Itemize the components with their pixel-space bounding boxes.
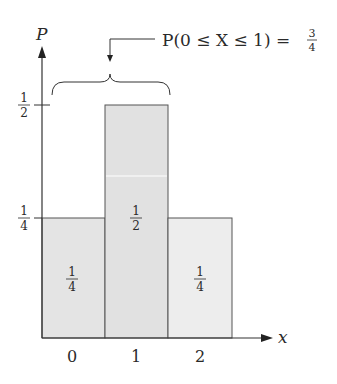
- svg-text:2: 2: [132, 219, 140, 233]
- x-tick-label-0: 0: [67, 347, 77, 366]
- y-tick-label-half: 1 2: [18, 91, 30, 120]
- x-tick-label-2: 2: [195, 347, 205, 366]
- svg-text:1: 1: [20, 204, 28, 218]
- svg-text:3: 3: [309, 27, 316, 40]
- svg-text:4: 4: [68, 280, 76, 294]
- svg-text:4: 4: [309, 41, 316, 54]
- x-tick-label-1: 1: [131, 347, 141, 366]
- svg-text:1: 1: [68, 265, 76, 279]
- svg-text:4: 4: [196, 280, 204, 294]
- annotation-text: P(0 ≤ X ≤ 1) =: [162, 30, 290, 50]
- svg-text:1: 1: [132, 204, 140, 218]
- x-axis-label: x: [278, 327, 288, 347]
- brace: [52, 74, 170, 95]
- svg-text:4: 4: [20, 219, 28, 233]
- annotation-arrow: [107, 39, 155, 62]
- bar-chart: P x 1 2 1 4 0 1 2 1 4 1 2 1 4: [0, 0, 337, 384]
- y-tick-label-quarter: 1 4: [18, 204, 30, 233]
- svg-text:1: 1: [196, 265, 204, 279]
- svg-text:2: 2: [20, 106, 28, 120]
- annotation-fraction: 3 4: [307, 27, 317, 54]
- svg-text:1: 1: [20, 91, 28, 105]
- y-axis-label: P: [35, 24, 48, 44]
